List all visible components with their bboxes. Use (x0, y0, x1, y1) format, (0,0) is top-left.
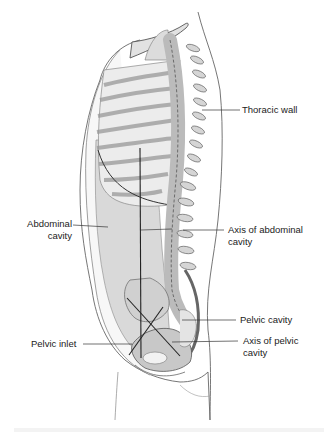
label-abdominal-cavity-line1: Abdominal (20, 218, 72, 230)
label-pelvic-cavity: Pelvic cavity (240, 314, 292, 326)
label-abdominal-cavity-line2: cavity (20, 230, 72, 242)
label-axis-of-pelvic-cavity: Axis of pelvic cavity (243, 335, 298, 359)
label-axis-of-pelvic-cavity-line1: Axis of pelvic (243, 335, 298, 347)
label-axis-of-abdominal-cavity-line2: cavity (228, 236, 303, 248)
label-axis-of-abdominal-cavity-line1: Axis of abdominal (228, 224, 303, 236)
label-thoracic-wall: Thoracic wall (242, 104, 297, 116)
label-pelvic-inlet: Pelvic inlet (31, 338, 76, 350)
bottom-divider (14, 428, 324, 432)
label-axis-of-pelvic-cavity-line2: cavity (243, 347, 298, 359)
label-axis-of-abdominal-cavity: Axis of abdominal cavity (228, 224, 303, 248)
label-abdominal-cavity: Abdominal cavity (20, 218, 72, 242)
